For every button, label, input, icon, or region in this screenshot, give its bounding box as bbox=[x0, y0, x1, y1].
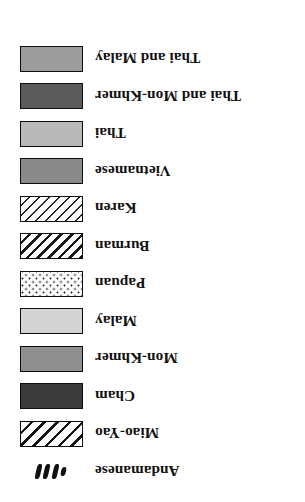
legend-item-label: Miao-Yao bbox=[95, 426, 159, 441]
dash-tick bbox=[52, 464, 60, 479]
legend-item-label: Thai bbox=[95, 126, 126, 141]
dash-tick bbox=[61, 467, 68, 476]
legend-item[interactable]: Thai and Mon-Khmer bbox=[0, 78, 305, 116]
legend-item-label: Papuan bbox=[95, 276, 145, 291]
swatch-andamanese bbox=[20, 458, 83, 484]
swatch-thai bbox=[20, 121, 83, 147]
legend-item-list: Thai and MalayThai and Mon-KhmerThaiViet… bbox=[0, 40, 305, 490]
legend-item-label: Thai and Mon-Khmer bbox=[95, 89, 241, 104]
legend-item-label: Andamanese bbox=[95, 464, 180, 479]
legend-item-label: Karen bbox=[95, 201, 137, 216]
legend-item-label: Vietnamese bbox=[95, 164, 171, 179]
map-legend: Thai and MalayThai and Mon-KhmerThaiViet… bbox=[0, 0, 305, 502]
legend-item[interactable]: Mon-Khmer bbox=[0, 340, 305, 378]
legend-item[interactable]: Cham bbox=[0, 378, 305, 416]
dash-tick bbox=[35, 464, 43, 479]
legend-item[interactable]: Thai bbox=[0, 115, 305, 153]
swatch-malay bbox=[20, 308, 83, 334]
swatch-miao-yao bbox=[20, 421, 83, 447]
legend-item[interactable]: Burman bbox=[0, 228, 305, 266]
legend-item[interactable]: Vietnamese bbox=[0, 153, 305, 191]
swatch-thai-and-malay bbox=[20, 46, 83, 72]
swatch-mon-khmer bbox=[20, 346, 83, 372]
legend-item-label: Malay bbox=[95, 314, 137, 329]
swatch-papuan bbox=[20, 271, 83, 297]
legend-item[interactable]: Papuan bbox=[0, 265, 305, 303]
legend-item-label: Cham bbox=[95, 389, 135, 404]
legend-item[interactable]: Andamanese bbox=[0, 453, 305, 491]
legend-item[interactable]: Thai and Malay bbox=[0, 40, 305, 78]
swatch-thai-and-mon-khmer bbox=[20, 83, 83, 109]
legend-item[interactable]: Malay bbox=[0, 303, 305, 341]
legend-item-label: Burman bbox=[95, 239, 150, 254]
legend-item-label: Mon-Khmer bbox=[95, 351, 178, 366]
dash-tick bbox=[43, 464, 51, 479]
swatch-vietnamese bbox=[20, 158, 83, 184]
swatch-cham bbox=[20, 383, 83, 409]
swatch-karen bbox=[20, 196, 83, 222]
swatch-burman bbox=[20, 233, 83, 259]
legend-item[interactable]: Miao-Yao bbox=[0, 415, 305, 453]
legend-item[interactable]: Karen bbox=[0, 190, 305, 228]
legend-item-label: Thai and Malay bbox=[95, 51, 200, 66]
